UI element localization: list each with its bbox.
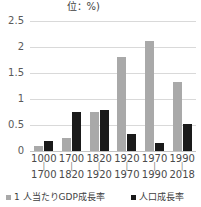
bar-gdp [34, 146, 43, 151]
y-tick-label: 2.5 [8, 16, 24, 26]
bar-pop [44, 141, 53, 151]
x-tick-group: 1700 | 1820 [58, 153, 86, 189]
bar-gdp [173, 82, 182, 151]
chart-title: 位：%) [0, 0, 100, 13]
chart-legend: 1 人当たりGDP成長率 人口成長率 [0, 190, 201, 205]
x-tick-group: 1920 | 1970 [113, 153, 141, 189]
x-tick-end: 1970 [113, 169, 141, 180]
legend-label: 人口成長率 [139, 192, 184, 203]
bar-gdp [145, 41, 154, 151]
bar-gdp [62, 138, 71, 151]
bar-group [85, 21, 113, 151]
bar-pop [183, 124, 192, 151]
legend-item-gdp: 1 人当たりGDP成長率 [6, 192, 105, 203]
x-tick-end: 1820 [58, 169, 86, 180]
y-tick-label: 0 [18, 146, 24, 156]
x-tick-group: 1970 | 1990 [141, 153, 169, 189]
bar-pop [127, 134, 136, 151]
y-tick-label: 1 [18, 94, 24, 104]
x-tick-group: 1990 | 2018 [168, 153, 196, 189]
bar-group [141, 21, 169, 151]
x-tick-end: 1700 [30, 169, 58, 180]
y-tick-label: 2 [18, 42, 24, 52]
legend-item-pop: 人口成長率 [131, 192, 184, 203]
bar-gdp [117, 57, 126, 151]
legend-label: 1 人当たりGDP成長率 [14, 192, 105, 203]
bar-group [168, 21, 196, 151]
x-axis-labels: 1000 | 1700 1700 | 1820 1820 | 1920 1920… [30, 153, 196, 189]
x-tick-group: 1820 | 1920 [85, 153, 113, 189]
axis-baseline [30, 151, 196, 152]
y-axis-labels: 2.5 2 1.5 1 0.5 0 [0, 21, 27, 151]
bar-group [58, 21, 86, 151]
bar-pop [100, 110, 109, 151]
x-tick-end: 1920 [85, 169, 113, 180]
bars-layer [30, 21, 196, 151]
x-tick-end: 2018 [168, 169, 196, 180]
bar-pop [155, 143, 164, 151]
bar-chart: 位：%) 2.5 2 1.5 1 0.5 0 [0, 0, 201, 207]
bar-pop [72, 112, 81, 151]
legend-swatch-icon [6, 195, 11, 200]
bar-group [113, 21, 141, 151]
plot-area [30, 21, 196, 151]
y-tick-label: 0.5 [8, 120, 24, 130]
bar-group [30, 21, 58, 151]
legend-swatch-icon [131, 195, 136, 200]
y-tick-label: 1.5 [8, 68, 24, 78]
x-tick-end: 1990 [141, 169, 169, 180]
x-tick-group: 1000 | 1700 [30, 153, 58, 189]
bar-gdp [90, 112, 99, 151]
